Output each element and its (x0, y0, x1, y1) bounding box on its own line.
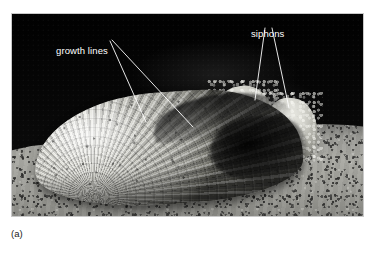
photograph: growth lines siphons (11, 13, 364, 217)
annotation-label-growth-lines: growth lines (56, 45, 108, 56)
figure-panel: growth lines siphons (a) (0, 0, 376, 254)
figure-caption: (a) (11, 228, 23, 239)
clam-shell (34, 92, 302, 204)
annotation-label-siphons: siphons (251, 28, 284, 39)
